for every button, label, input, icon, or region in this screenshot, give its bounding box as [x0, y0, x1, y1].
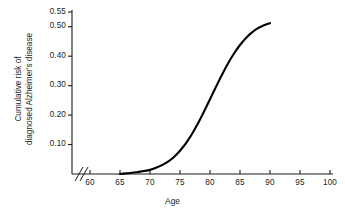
- x-axis-tick-label: 80: [195, 178, 225, 187]
- x-axis-tick-label: 75: [165, 178, 195, 187]
- x-axis-tick-label: 70: [135, 178, 165, 187]
- y-axis-title-line-1: Cumulative risk of: [13, 9, 24, 169]
- x-axis-title: Age: [0, 196, 345, 206]
- x-axis-tick-label: 65: [105, 178, 135, 187]
- axes-group: [72, 10, 333, 174]
- y-axis-ticks: [68, 12, 72, 145]
- y-axis-title: Cumulative risk of diagnosed Alzheimer's…: [13, 9, 35, 169]
- x-axis-tick-label: 85: [225, 178, 255, 187]
- alzheimer-cumulative-risk-chart: 0.100.200.300.400.500.55 606570758085909…: [0, 0, 345, 213]
- x-axis-tick-label: 95: [285, 178, 315, 187]
- x-axis-tick-label: 60: [75, 178, 105, 187]
- x-axis-tick-label: 90: [255, 178, 285, 187]
- risk-curve-line: [120, 23, 270, 174]
- x-axis-tick-label: 100: [315, 178, 345, 187]
- y-axis-title-line-2: diagnosed Alzheimer's disease: [24, 9, 35, 169]
